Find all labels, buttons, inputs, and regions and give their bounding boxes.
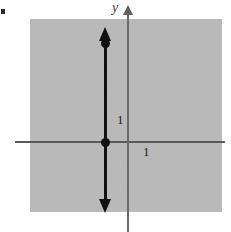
gridline-horizontal bbox=[30, 211, 222, 212]
gridline-horizontal bbox=[30, 91, 222, 92]
coordinate-grid bbox=[30, 19, 222, 212]
scan-artifact-mark bbox=[1, 9, 5, 14]
y-axis bbox=[127, 12, 129, 232]
marked-point-upper bbox=[101, 39, 110, 48]
vertical-unit-label: 1 bbox=[117, 113, 124, 126]
gridline-horizontal bbox=[30, 116, 222, 117]
y-axis-label: y bbox=[112, 0, 118, 16]
gridline-horizontal bbox=[30, 43, 222, 44]
marked-point-x-intercept bbox=[101, 138, 110, 147]
gridline-horizontal bbox=[30, 67, 222, 68]
line-arrow-down-icon bbox=[99, 199, 111, 213]
gridline-horizontal bbox=[30, 189, 222, 190]
x-axis bbox=[15, 141, 225, 143]
coordinate-plane-figure: y 1 1 bbox=[0, 0, 231, 232]
horizontal-unit-label: 1 bbox=[143, 145, 150, 158]
gridline-horizontal bbox=[30, 165, 222, 166]
plotted-vertical-line bbox=[104, 40, 107, 203]
gridline-horizontal bbox=[30, 19, 222, 20]
y-axis-arrow-icon bbox=[123, 5, 133, 15]
